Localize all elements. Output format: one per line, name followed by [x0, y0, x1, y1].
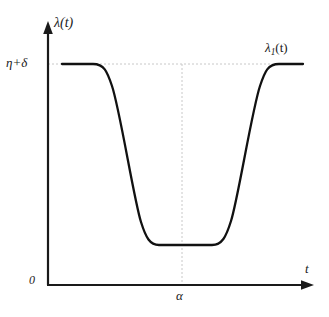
y-axis-arrowhead — [43, 21, 53, 34]
y-axis-tick-label-text: η+δ — [6, 55, 27, 70]
curve-label: λ1(t) — [265, 41, 288, 57]
y-axis-title: λ(t) — [54, 16, 73, 30]
x-axis-tick-label: α — [176, 289, 183, 302]
y-axis-title-text: λ(t) — [54, 15, 73, 30]
x-axis-arrowhead — [301, 280, 314, 290]
curve-label-argument: (t) — [275, 40, 287, 55]
origin-label: 0 — [29, 274, 35, 286]
x-axis-tick-label-text: α — [176, 288, 183, 303]
x-axis-title-text: t — [305, 261, 309, 276]
x-axis-title: t — [305, 262, 309, 275]
y-axis-tick-label: η+δ — [6, 56, 27, 69]
figure-root: λ(t) η+δ 0 α t λ1(t) — [0, 0, 329, 317]
origin-label-text: 0 — [29, 273, 35, 287]
